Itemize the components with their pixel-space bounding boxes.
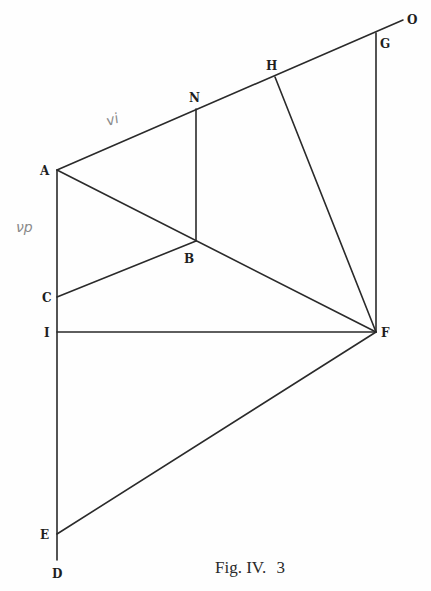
segment-HF <box>275 77 376 332</box>
label-D: D <box>52 567 62 581</box>
label-B: B <box>184 252 194 266</box>
label-N: N <box>189 91 200 105</box>
figure-caption: Fig. IV. 3 <box>215 558 285 577</box>
label-I: I <box>44 326 50 340</box>
annotation-vi: vi <box>104 110 121 129</box>
label-G: G <box>380 37 390 51</box>
geometry-svg: A N H G O B C I F E D vi νp Fig. IV. 3 <box>0 0 431 591</box>
segment-AO <box>57 20 403 170</box>
label-H: H <box>266 59 277 73</box>
diagram-figure: A N H G O B C I F E D vi νp Fig. IV. 3 <box>0 0 431 591</box>
label-E: E <box>40 528 49 542</box>
segment-CB <box>57 241 196 297</box>
caption-number: 3 <box>276 558 285 577</box>
annotation-vp: νp <box>16 219 33 235</box>
label-A: A <box>39 164 50 178</box>
segment-AF <box>57 170 376 332</box>
label-O: O <box>407 13 417 27</box>
caption-main: Fig. IV. <box>215 558 266 577</box>
label-C: C <box>42 291 52 305</box>
segment-EF <box>57 332 376 534</box>
label-F: F <box>381 326 390 340</box>
